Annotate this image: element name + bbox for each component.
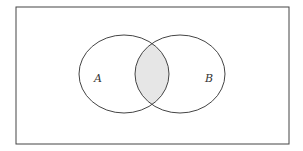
set-b-label: B	[204, 72, 213, 85]
venn-diagram: A B	[0, 0, 303, 151]
set-a-label: A	[93, 72, 102, 85]
